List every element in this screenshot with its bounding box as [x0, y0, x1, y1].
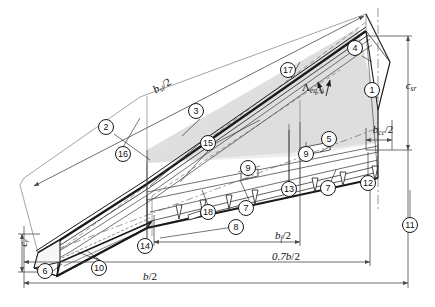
callout-bubble-14[interactable]: 14 — [137, 238, 153, 254]
callout-bubble-5[interactable]: 5 — [321, 131, 337, 147]
callout-bubble-12[interactable]: 12 — [360, 175, 376, 191]
dimension-label-b_half: b/2 — [143, 270, 157, 282]
dim-sub: sr — [411, 85, 417, 93]
callout-bubble-16[interactable]: 16 — [115, 146, 131, 162]
lambda-subscript: eq,¼ — [310, 87, 324, 95]
callout-bubble-8[interactable]: 8 — [228, 219, 244, 235]
dimension-label-b_f_half: bf/2 — [275, 229, 291, 243]
dimension-label-zero7_b_half: 0.7b/2 — [272, 250, 300, 262]
callout-bubble-2[interactable]: 2 — [98, 119, 114, 135]
callout-bubble-17[interactable]: 17 — [280, 62, 296, 78]
lambda-glyph: Λ — [302, 81, 310, 93]
dim-tail: /2 — [385, 123, 394, 135]
callout-bubble-9[interactable]: 9 — [240, 160, 256, 176]
dim-tail: /2 — [291, 250, 300, 262]
callout-bubble-9[interactable]: 9 — [298, 146, 314, 162]
callout-bubble-15[interactable]: 15 — [200, 135, 216, 151]
dim-sub: r — [23, 239, 31, 242]
dim-tail: /2 — [282, 229, 291, 241]
sweep-angle-label: Λeq,¼ — [302, 81, 324, 95]
dim-main: c — [17, 242, 29, 247]
callout-bubble-11[interactable]: 11 — [402, 217, 418, 233]
callout-bubble-4[interactable]: 4 — [347, 40, 363, 56]
callout-bubble-18[interactable]: 18 — [200, 204, 216, 220]
drawing-canvas — [0, 0, 435, 307]
dim-tail: /2 — [148, 270, 157, 282]
callout-bubble-13[interactable]: 13 — [281, 181, 297, 197]
dim-main: 0.7b — [272, 250, 291, 262]
callout-bubble-3[interactable]: 3 — [188, 103, 204, 119]
callout-bubble-10[interactable]: 10 — [91, 260, 107, 276]
dimension-label-c_sr: csr — [406, 79, 417, 93]
callout-bubble-7[interactable]: 7 — [238, 200, 254, 216]
callout-bubble-7[interactable]: 7 — [320, 180, 336, 196]
callout-bubble-6[interactable]: 6 — [37, 263, 53, 279]
dimension-label-b_ce_half: bce/2 — [373, 123, 394, 137]
callout-bubble-1[interactable]: 1 — [364, 82, 380, 98]
wing-planform-figure: bsl/2csrbce/2crbf/20.7b/2b/2 Λeq,¼ 12345… — [0, 0, 435, 307]
dimension-label-c_r: cr — [17, 239, 31, 247]
